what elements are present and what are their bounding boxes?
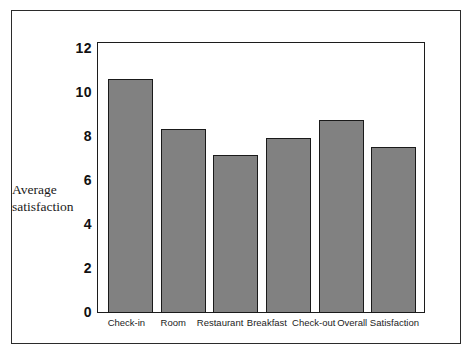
bar-slot-breakfast	[262, 44, 315, 313]
plot-area-frame	[97, 42, 425, 313]
x-tick-label-restaurant: Restaurant	[197, 316, 244, 332]
y-axis-tick-labels: 0 2 4 6 8 10 12	[56, 0, 92, 354]
plot-area	[98, 43, 424, 312]
y-tick-label-8: 8	[56, 129, 92, 143]
bar-slot-check-in	[104, 44, 157, 313]
x-axis-tick-labels: Check-in Room Restaurant Breakfast Check…	[98, 316, 424, 332]
bar-series	[99, 44, 425, 313]
y-tick-label-4: 4	[56, 217, 92, 231]
bar-slot-restaurant	[209, 44, 262, 313]
y-tick-label-12: 12	[56, 41, 92, 55]
bar-breakfast[interactable]	[266, 138, 311, 313]
x-tick-label-check-out: Check-out	[290, 316, 337, 332]
bar-room[interactable]	[161, 129, 206, 313]
x-tick-label-room: Room	[150, 316, 197, 332]
bar-overall-satisfaction[interactable]	[371, 147, 416, 313]
y-tick-label-2: 2	[56, 261, 92, 275]
x-tick-label-check-in: Check-in	[103, 316, 150, 332]
x-tick-label-overall-satisfaction: Overall Satisfaction	[337, 316, 419, 332]
y-tick-label-10: 10	[56, 85, 92, 99]
bar-chart-figure: Average satisfaction 0 2 4 6 8 10 12	[0, 0, 473, 354]
x-tick-label-breakfast: Breakfast	[243, 316, 290, 332]
bar-restaurant[interactable]	[213, 155, 258, 313]
y-tick-label-6: 6	[56, 173, 92, 187]
bar-slot-overall-satisfaction	[367, 44, 420, 313]
bar-check-in[interactable]	[108, 79, 153, 313]
bar-slot-room	[157, 44, 210, 313]
y-tick-label-0: 0	[56, 305, 92, 319]
bar-slot-check-out	[315, 44, 368, 313]
bar-check-out[interactable]	[319, 120, 364, 313]
